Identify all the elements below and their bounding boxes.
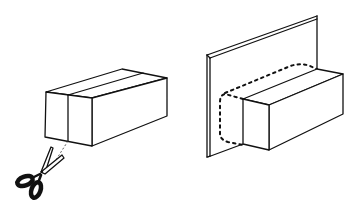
right-panel-group xyxy=(207,16,343,157)
illustration-canvas xyxy=(0,0,357,209)
block-front-face xyxy=(243,99,269,150)
left-box-group xyxy=(16,69,167,199)
scissors-icon xyxy=(16,147,64,199)
